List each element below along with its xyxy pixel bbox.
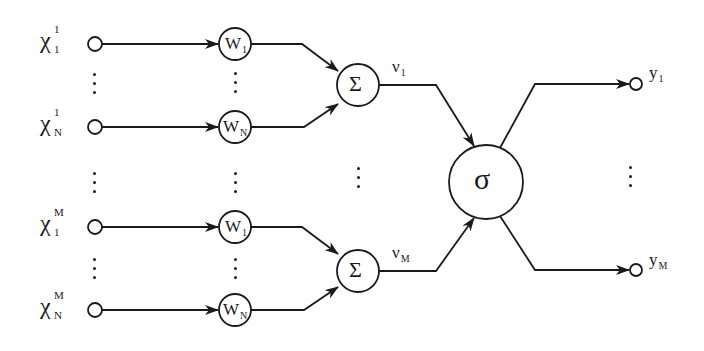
ellipsis-inputs-top [93,73,97,100]
weight-subscript: N [240,127,247,138]
edge-w1-to-sum1 [251,44,338,71]
input-subscript: 1 [54,227,60,238]
weight-label-w1-top: W1 [225,35,246,52]
input-node-x1-N [88,120,102,134]
edge-w1-to-sumM [251,227,338,254]
output-subscript: 1 [659,73,664,84]
input-node-xM-N [88,303,102,317]
nu-subscript: M [401,253,410,264]
input-subscript: N [54,310,62,321]
ellipsis-inputs-bottom [93,258,97,285]
weight-subscript: 1 [242,44,247,55]
weight-symbol: W [223,300,239,319]
output-subscript: M [659,260,668,271]
sum-symbol-M: Σ [349,259,362,281]
output-node-yM [630,264,642,276]
output-label-y1: y1 [649,64,663,81]
neural-network-diagram: χ 1 1 χ 1 N χ M 1 χ M N W1 WN W1 WN Σ Σ … [0,0,704,351]
weight-subscript: N [240,310,247,321]
input-superscript: 1 [54,107,60,118]
ellipsis-inputs-middle [93,172,97,199]
weight-symbol: W [225,217,241,236]
nu-symbol: ν [392,243,400,262]
output-label-yM: yM [649,251,666,268]
ellipsis-sums [357,167,361,194]
nu-label-1: ν1 [392,58,405,75]
edge-wN-to-sum1 [251,104,338,127]
input-symbol: χ [40,293,51,319]
sum-symbol-1: Σ [349,73,362,95]
weight-label-wN-bottom: WN [223,301,246,318]
diagram-canvas [0,0,704,351]
input-subscript: N [54,127,62,138]
input-symbol: χ [40,110,51,136]
edge-wN-to-sumM [251,287,338,310]
edge-sum1-to-sigma [379,85,474,146]
input-node-x1-1 [88,37,102,51]
ellipsis-weights-top [234,72,238,99]
input-label-xM-N: χ M N [40,294,51,318]
input-node-xM-1 [88,220,102,234]
output-symbol: y [649,63,658,82]
weight-label-w1-bottom: W1 [225,218,246,235]
edge-sigma-to-yM [500,216,629,270]
nu-symbol: ν [392,57,400,76]
ellipsis-outputs [629,166,633,193]
nu-subscript: 1 [401,67,406,78]
input-superscript: M [54,290,64,301]
weight-symbol: W [225,34,241,53]
input-superscript: M [54,207,64,218]
nu-label-M: νM [392,244,409,261]
ellipsis-weights-bottom [234,258,238,285]
input-symbol: χ [40,27,51,53]
weight-symbol: W [223,117,239,136]
weight-subscript: 1 [242,227,247,238]
sigma-symbol: σ [474,164,490,194]
input-subscript: 1 [54,44,60,55]
input-label-x1-1: χ 1 1 [40,28,51,52]
input-label-x1-N: χ 1 N [40,111,51,135]
weight-label-wN-top: WN [223,118,246,135]
input-superscript: 1 [54,24,60,35]
edge-sigma-to-y1 [500,84,629,148]
input-symbol: χ [40,210,51,236]
ellipsis-weights-middle [234,172,238,199]
output-node-y1 [630,78,642,90]
input-label-xM-1: χ M 1 [40,211,51,235]
output-symbol: y [649,250,658,269]
